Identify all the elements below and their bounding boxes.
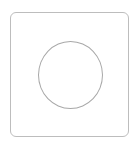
canvas [0,0,140,149]
circle-shape [38,41,103,109]
